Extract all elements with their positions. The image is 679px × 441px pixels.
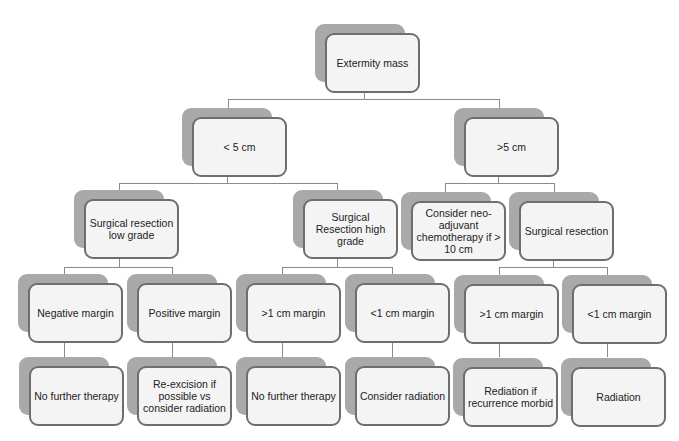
node-label: >1 cm margin — [464, 284, 559, 344]
node-label: No further therapy — [246, 366, 341, 426]
node-no-further-therapy-2: No further therapy — [246, 366, 337, 426]
connector — [282, 343, 283, 357]
connector — [498, 176, 499, 183]
node-high-lt1cm-margin: <1 cm margin — [355, 283, 446, 343]
node-reexcision: Re-excision if possible vs consider radi… — [137, 366, 228, 426]
connector — [337, 259, 338, 267]
node-right-gt1cm-margin: >1 cm margin — [464, 284, 555, 344]
flowchart: Extermity mass < 5 cm >5 cm Surgical res… — [0, 0, 679, 441]
node-neoadjuvant-chemo: Consider neo-adjuvant chemotherapy if > … — [411, 201, 502, 261]
node-label: Consider neo-adjuvant chemotherapy if > … — [411, 201, 506, 261]
node-label: Negative margin — [28, 283, 123, 343]
connector — [607, 344, 608, 357]
connector — [499, 267, 500, 275]
node-lt-5cm: < 5 cm — [192, 117, 283, 177]
node-consider-radiation: Consider radiation — [355, 366, 446, 426]
node-no-further-therapy-1: No further therapy — [29, 366, 120, 426]
connector — [445, 183, 446, 192]
connector — [228, 99, 229, 108]
node-label: >1 cm margin — [246, 283, 341, 343]
node-label: No further therapy — [29, 366, 124, 426]
connector — [119, 259, 120, 267]
connector — [392, 343, 393, 357]
node-label: <1 cm margin — [355, 283, 450, 343]
node-rediation-if-recurrence-morbid: Rediation if recurrence morbid — [463, 367, 554, 427]
connector — [554, 183, 555, 192]
connector — [172, 343, 173, 357]
node-negative-margin: Negative margin — [28, 283, 119, 343]
node-label: < 5 cm — [192, 117, 287, 177]
node-extremity-mass: Extermity mass — [325, 33, 416, 93]
node-label: Positive margin — [137, 283, 232, 343]
node-label: Surgical resection low grade — [84, 199, 179, 259]
connector — [227, 176, 228, 183]
connector — [64, 267, 172, 268]
node-positive-margin: Positive margin — [137, 283, 228, 343]
node-surgical-resection-low-grade: Surgical resection low grade — [84, 199, 175, 259]
node-label: >5 cm — [464, 117, 559, 177]
node-label: <1 cm margin — [572, 284, 667, 344]
connector — [607, 267, 608, 275]
node-surgical-resection-high-grade: Surgical Resection high grade — [303, 199, 394, 259]
connector — [119, 183, 337, 184]
node-surgical-resection-right: Surgical resection — [519, 201, 610, 261]
connector — [282, 267, 392, 268]
connector — [499, 267, 607, 268]
node-label: Re-excision if possible vs consider radi… — [137, 366, 232, 426]
connector — [64, 343, 65, 357]
connector — [364, 92, 365, 99]
node-radiation: Radiation — [571, 367, 662, 427]
node-gt-5cm: >5 cm — [464, 117, 555, 177]
connector — [228, 99, 499, 100]
node-label: Radiation — [571, 367, 666, 427]
node-label: Rediation if recurrence morbid — [463, 367, 558, 427]
node-label: Extermity mass — [325, 33, 420, 93]
node-high-gt1cm-margin: >1 cm margin — [246, 283, 337, 343]
connector — [499, 99, 500, 108]
connector — [445, 183, 554, 184]
node-label: Consider radiation — [355, 366, 450, 426]
connector — [499, 344, 500, 357]
node-label: Surgical resection — [519, 201, 614, 261]
node-right-lt1cm-margin: <1 cm margin — [572, 284, 663, 344]
node-label: Surgical Resection high grade — [303, 199, 398, 259]
